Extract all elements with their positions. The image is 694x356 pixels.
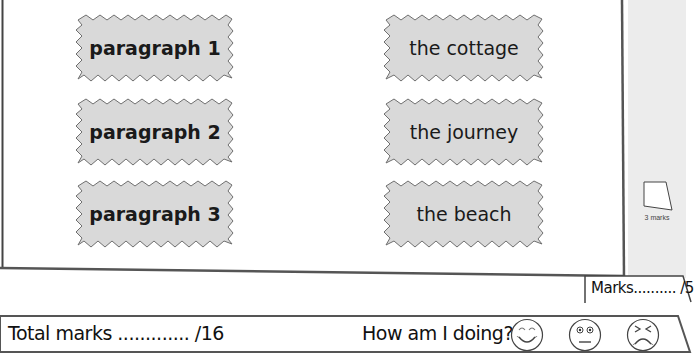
section-marks-box[interactable]: Marks.......... /5 [583,275,692,303]
total-marks-label: Total marks ............. /16 [8,322,224,344]
sad-face-icon[interactable] [626,318,660,352]
neutral-face-icon[interactable] [568,318,602,352]
margin-answer-box[interactable] [640,178,676,214]
topic-card-cottage[interactable]: the cottage [382,14,546,82]
card-label: paragraph 1 [74,14,236,82]
section-marks-label: Marks.......... /5 [591,279,694,297]
paragraph-card-3[interactable]: paragraph 3 [74,180,236,248]
margin-marks-label: 3 marks [630,214,684,221]
happy-face-icon[interactable] [510,318,544,352]
card-label: the journey [382,98,546,166]
paragraph-card-1[interactable]: paragraph 1 [74,14,236,82]
answer-box-shape [640,178,676,214]
how-am-i-doing-label: How am I doing? [362,322,513,344]
card-label: the cottage [382,14,546,82]
card-label: paragraph 3 [74,180,236,248]
paragraph-card-2[interactable]: paragraph 2 [74,98,236,166]
card-label: paragraph 2 [74,98,236,166]
card-label: the beach [382,180,546,248]
topic-card-journey[interactable]: the journey [382,98,546,166]
topic-card-beach[interactable]: the beach [382,180,546,248]
footer-total-bar: Total marks ............. /16 How am I d… [0,314,692,354]
